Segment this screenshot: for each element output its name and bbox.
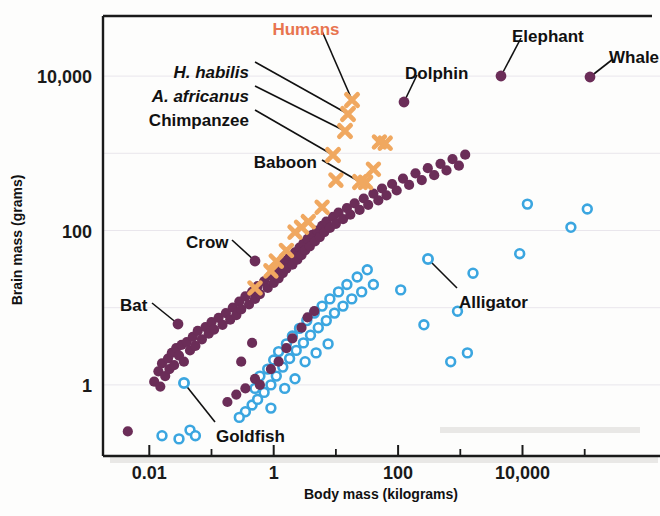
x-tick-label: 0.01 [132, 463, 167, 483]
data-point [280, 384, 289, 393]
y-tick-label-group: 10,0001001 [37, 67, 92, 396]
data-point [291, 374, 300, 383]
chart-canvas: 0.01110010,000 10,0001001 HumansDolphinE… [0, 0, 660, 516]
whale-point [585, 72, 596, 83]
data-point [158, 431, 167, 440]
data-point [381, 190, 391, 200]
annotation-label: Elephant [512, 27, 584, 46]
brain-vs-body-mass-scatter-figure: 0.01110010,000 10,0001001 HumansDolphinE… [0, 0, 660, 516]
bat-point [173, 319, 184, 330]
series-mammals-and-birds [123, 150, 471, 437]
data-point [357, 288, 366, 297]
data-point [345, 210, 355, 220]
annotation-label: Bat [120, 296, 148, 315]
annotation-label: Goldfish [216, 427, 285, 446]
data-point [179, 357, 189, 367]
data-point [331, 175, 342, 186]
data-point [583, 205, 592, 214]
data-point [231, 390, 241, 400]
x-tick-group [149, 445, 584, 456]
data-point [469, 269, 478, 278]
annotation-label: A. africanus [151, 87, 249, 106]
x-tick-label: 10,000 [495, 463, 550, 483]
annotation-label: Baboon [254, 153, 317, 172]
data-point [363, 200, 373, 210]
annotation-label: Alligator [459, 293, 528, 312]
data-point [347, 295, 356, 304]
annotation-leader-line [255, 110, 333, 155]
data-point [441, 165, 451, 175]
humans-point [346, 94, 357, 105]
data-point [267, 381, 276, 390]
elephant-point [496, 71, 507, 82]
y-tick-label: 1 [82, 376, 92, 396]
data-point [222, 397, 232, 407]
data-point [334, 288, 343, 297]
data-point [191, 431, 200, 440]
data-point [287, 333, 297, 343]
data-point [266, 364, 276, 374]
y-axis-title: Brain mass (grams) [9, 175, 25, 306]
data-point [339, 302, 348, 311]
x-tick-label-group: 0.01110010,000 [132, 463, 550, 483]
data-point [309, 306, 319, 316]
data-point [175, 435, 184, 444]
data-point [255, 380, 265, 390]
y-tick-label: 10,000 [37, 67, 92, 87]
data-point [454, 161, 464, 171]
data-point [355, 205, 365, 215]
data-point [420, 320, 429, 329]
data-point [326, 295, 335, 304]
data-point [169, 360, 179, 370]
data-point [463, 349, 472, 358]
data-point [368, 164, 379, 175]
data-point [240, 383, 250, 393]
annotation-label: Crow [186, 233, 229, 252]
data-point [404, 180, 414, 190]
data-point [296, 323, 306, 333]
data-point [353, 273, 362, 282]
annotation-label: Chimpanzee [149, 111, 249, 130]
data-point [446, 357, 455, 366]
data-point [267, 404, 276, 413]
data-point [123, 426, 133, 436]
x-tick-label: 1 [269, 463, 279, 483]
chimpanzee-point [327, 149, 338, 160]
data-point [155, 382, 165, 392]
data-point [318, 302, 327, 311]
x-tick-label: 100 [383, 463, 413, 483]
data-point [301, 357, 310, 366]
y-tick-label: 100 [62, 222, 92, 242]
data-point [281, 343, 291, 353]
data-point [306, 331, 315, 340]
data-point [314, 323, 323, 332]
annotation-leader-line [322, 31, 352, 100]
annotation-label: H. habilis [173, 63, 249, 82]
data-point [312, 349, 321, 358]
data-point [396, 286, 405, 295]
data-point [292, 346, 301, 355]
annotation-label-group: HumansDolphinElephantWhaleH. habilisA. a… [120, 20, 659, 446]
data-point [324, 340, 333, 349]
x-axis-title: Body mass (kilograms) [304, 486, 458, 502]
data-point [274, 357, 284, 367]
data-point [417, 175, 427, 185]
data-point [285, 354, 294, 363]
data-point [429, 170, 439, 180]
alligator-point [423, 254, 432, 263]
data-point [235, 413, 244, 422]
annotation-leader-line [184, 383, 215, 422]
dolphin-point [399, 97, 410, 108]
crow-point [250, 256, 261, 267]
h-habilis-point [342, 108, 353, 119]
data-point [322, 316, 331, 325]
data-point [523, 200, 532, 209]
data-point [567, 223, 576, 232]
data-point [460, 150, 470, 160]
annotation-label: Dolphin [405, 64, 468, 83]
data-point [343, 280, 352, 289]
goldfish-point [179, 378, 188, 387]
data-point [363, 265, 372, 274]
a-africanus-point [339, 125, 350, 136]
annotation-label: Whale [609, 48, 659, 67]
